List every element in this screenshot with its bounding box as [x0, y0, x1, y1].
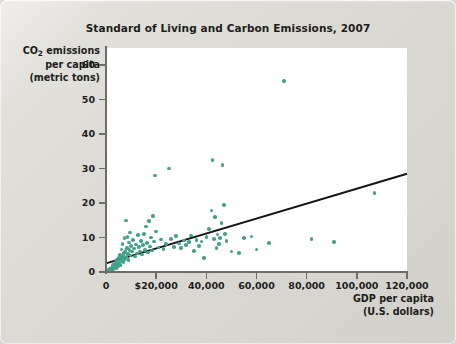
co2-subscript: 2: [38, 49, 43, 58]
scatter-point: [127, 258, 131, 262]
y-tick-label: 10: [55, 232, 95, 243]
scatter-point: [121, 242, 125, 246]
scatter-point: [213, 215, 217, 219]
scatter-point: [126, 235, 130, 239]
scatter-point: [177, 242, 181, 246]
scatter-point: [167, 167, 171, 171]
scatter-point: [205, 235, 209, 239]
scatter-point: [332, 240, 336, 244]
x-tick-mark: [256, 272, 258, 279]
x-axis-title: GDP per capita (U.S. dollars): [247, 292, 447, 318]
scatter-point: [267, 241, 271, 245]
scatter-point: [182, 239, 186, 243]
chart-figure: Standard of Living and Carbon Emissions,…: [0, 0, 456, 344]
x-tick-mark: [406, 272, 408, 279]
y-tick-label: 0: [55, 266, 95, 277]
scatter-point: [133, 255, 137, 259]
scatter-point: [172, 245, 176, 249]
y-tick-label: 40: [55, 128, 95, 139]
y-axis-title-line3: (metric tons): [29, 72, 100, 83]
scatter-point: [197, 244, 201, 248]
scatter-point: [212, 237, 216, 241]
x-tick-label: 120,000: [372, 280, 442, 291]
scatter-point: [223, 232, 227, 236]
scatter-point: [215, 246, 219, 250]
scatter-point: [169, 237, 173, 241]
x-axis-title-line2: (U.S. dollars): [363, 306, 434, 317]
x-tick-mark: [306, 272, 308, 279]
scatter-point: [142, 232, 146, 236]
scatter-point: [136, 233, 140, 237]
y-axis-line: [105, 46, 107, 274]
scatter-point: [131, 238, 135, 242]
scatter-point: [147, 219, 151, 223]
y-axis-title-line1: CO2 emissions: [23, 45, 100, 56]
plot-area: [106, 48, 407, 272]
scatter-point: [282, 79, 286, 83]
scatter-point: [151, 214, 155, 218]
y-tick-label: 50: [55, 94, 95, 105]
y-tick-mark: [99, 237, 106, 239]
scatter-point: [164, 242, 168, 246]
scatter-point: [242, 236, 246, 240]
scatter-point: [124, 219, 128, 223]
scatter-point: [217, 242, 221, 246]
y-tick-label: 30: [55, 163, 95, 174]
scatter-point: [174, 234, 178, 238]
x-tick-mark: [206, 272, 208, 279]
scatter-point: [128, 231, 132, 235]
y-tick-mark: [99, 168, 106, 170]
x-tick-mark: [356, 272, 358, 279]
scatter-point: [187, 240, 191, 244]
scatter-point: [220, 221, 224, 225]
scatter-point: [195, 238, 199, 242]
scatter-point: [222, 203, 226, 207]
scatter-point: [237, 251, 241, 255]
y-tick-label: 60: [55, 59, 95, 70]
x-tick-mark: [155, 272, 157, 279]
scatter-point: [373, 191, 377, 195]
y-tick-mark: [99, 99, 106, 101]
scatter-point: [122, 260, 126, 264]
y-tick-mark: [99, 133, 106, 135]
chart-title: Standard of Living and Carbon Emissions,…: [0, 22, 456, 34]
scatter-point: [192, 249, 196, 253]
scatter-point: [140, 253, 144, 257]
y-tick-label: 20: [55, 197, 95, 208]
y-tick-mark: [99, 202, 106, 204]
scatter-point: [218, 236, 222, 240]
scatter-point: [154, 230, 158, 234]
y-tick-mark: [99, 64, 106, 66]
scatter-point: [207, 227, 211, 231]
scatter-point: [225, 239, 229, 243]
scatter-point: [202, 256, 206, 260]
scatter-point: [184, 243, 188, 247]
y-tick-mark: [99, 271, 106, 273]
x-axis-title-line1: GDP per capita: [353, 293, 434, 304]
